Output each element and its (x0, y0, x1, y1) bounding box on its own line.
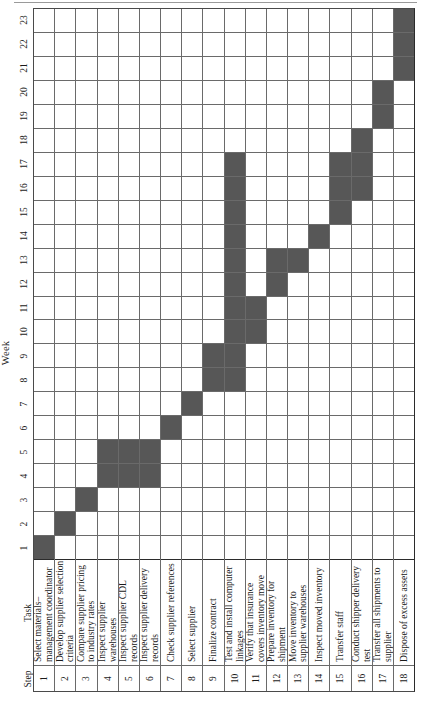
rotated-figure-wrapper: Week Step Task 1234567891011121314151617… (0, 0, 421, 706)
grid-cell (140, 367, 160, 391)
grid-cell (352, 80, 372, 104)
grid-cell (330, 296, 350, 320)
grid-cell (394, 272, 414, 296)
gantt-bar-segment (373, 104, 393, 128)
grid-cell (161, 272, 181, 296)
grid-cell (34, 296, 54, 320)
grid-cell (203, 9, 223, 32)
grid-cell (246, 415, 266, 439)
grid-cell (55, 272, 75, 296)
gantt-bar-segment (225, 152, 245, 176)
grid-cell (119, 224, 139, 248)
grid-cell (394, 319, 414, 343)
grid-cell (225, 128, 245, 152)
grid-cell (161, 104, 181, 128)
grid-cell (203, 128, 223, 152)
week-tick-11: 11 (16, 296, 33, 320)
grid-cell (140, 343, 160, 367)
grid-cell (119, 104, 139, 128)
grid-cell (203, 224, 223, 248)
week-tick-15: 15 (16, 200, 33, 224)
grid-cell (267, 367, 287, 391)
gantt-bar-segment (140, 463, 160, 487)
gantt-bar-segment (161, 415, 181, 439)
grid-cell (182, 487, 202, 511)
gantt-bar-segment (246, 296, 266, 320)
grid-cell (119, 176, 139, 200)
grid-cell (267, 391, 287, 415)
grid-cell (203, 248, 223, 272)
grid-cell (267, 9, 287, 32)
grid-cell (161, 535, 181, 559)
grid-cell (98, 224, 118, 248)
gantt-bar-segment (119, 463, 139, 487)
grid-cell (161, 391, 181, 415)
grid-cell (288, 272, 308, 296)
grid-cell (309, 296, 329, 320)
grid-cell (246, 32, 266, 56)
grid-cell (267, 439, 287, 463)
grid-cell (330, 511, 350, 535)
grid-cell (182, 128, 202, 152)
grid-cell (76, 176, 96, 200)
grid-cell (161, 32, 181, 56)
grid-cell (98, 152, 118, 176)
grid-cell (288, 439, 308, 463)
gantt-bar-segment (119, 439, 139, 463)
grid-cell (34, 439, 54, 463)
grid-cell (309, 391, 329, 415)
task-label: Prepare inventory for shipment (267, 559, 287, 665)
step-number: 16 (352, 665, 372, 691)
grid-cell (98, 56, 118, 80)
grid-cell (182, 9, 202, 32)
grid-cell (203, 176, 223, 200)
step-number: 2 (55, 665, 75, 691)
grid-cell (98, 296, 118, 320)
grid-cell (182, 104, 202, 128)
week-tick-14: 14 (16, 224, 33, 248)
grid-cell (119, 200, 139, 224)
grid-cell (309, 487, 329, 511)
grid-cell (288, 487, 308, 511)
grid-cell (34, 463, 54, 487)
bar-track (330, 9, 350, 559)
grid-cell (203, 56, 223, 80)
grid-cell (267, 319, 287, 343)
grid-cell (76, 439, 96, 463)
grid-cell (34, 104, 54, 128)
grid-cell (373, 535, 393, 559)
grid-cell (203, 104, 223, 128)
gantt-bar-segment (225, 200, 245, 224)
gantt-bar-segment (34, 535, 54, 559)
grid-cell (309, 272, 329, 296)
grid-cell (55, 535, 75, 559)
table-row: 12Prepare inventory for shipment (267, 9, 288, 691)
grid-cell (373, 439, 393, 463)
grid-cell (352, 511, 372, 535)
grid-cell (352, 535, 372, 559)
task-label: Transfer all shipments to supplier (373, 559, 393, 665)
grid-cell (373, 463, 393, 487)
gantt-bar-segment (76, 487, 96, 511)
grid-cell (119, 296, 139, 320)
grid-cell (330, 439, 350, 463)
grid-cell (161, 248, 181, 272)
grid-cell (330, 80, 350, 104)
grid-cell (309, 128, 329, 152)
grid-cell (394, 104, 414, 128)
bar-track (394, 9, 414, 559)
grid-cell (98, 248, 118, 272)
grid-cell (309, 439, 329, 463)
task-label: Finalize contract (203, 559, 223, 665)
gantt-bar-segment (203, 367, 223, 391)
grid-cell (330, 272, 350, 296)
grid-cell (225, 439, 245, 463)
grid-cell (352, 200, 372, 224)
gantt-bar-segment (373, 80, 393, 104)
gantt-bar-segment (98, 463, 118, 487)
week-header-row: Step Task 123456789101112131415161718192… (16, 8, 33, 692)
gantt-bar-segment (225, 248, 245, 272)
table-row: 8Select supplier (182, 9, 203, 691)
grid-cell (288, 415, 308, 439)
table-row: 13Move inventory to supplier warehouses (288, 9, 309, 691)
